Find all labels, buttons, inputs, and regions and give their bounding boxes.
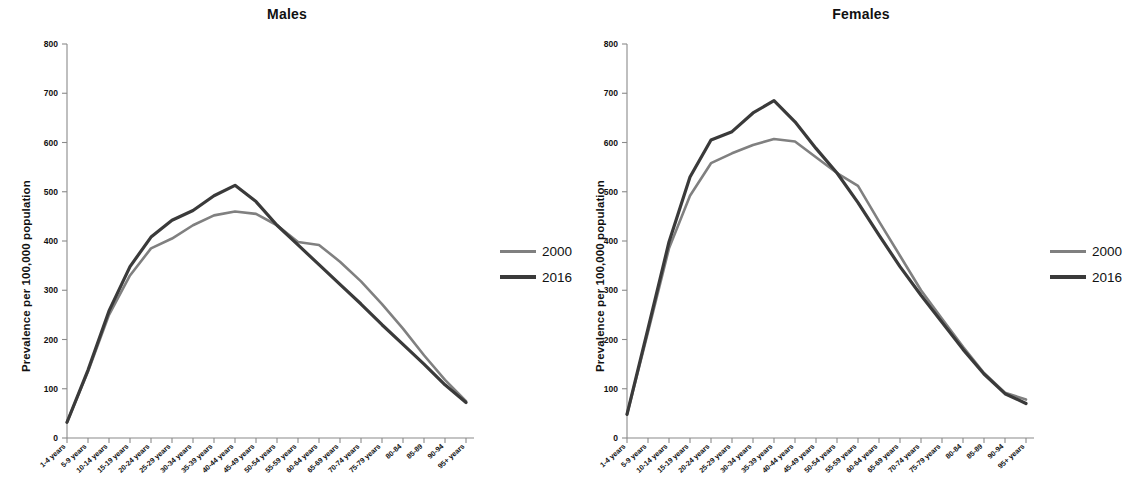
legend-item-2000[interactable]: 2000 <box>1050 238 1122 264</box>
series-line-2000 <box>67 211 466 422</box>
svg-text:100: 100 <box>604 384 618 394</box>
legend-swatch-2000-icon <box>500 250 536 253</box>
svg-text:400: 400 <box>604 236 618 246</box>
x-axis-ticks: 1-4 years5-9 years10-14 years15-19 years… <box>598 438 1026 475</box>
y-axis-ticks: 0100200300400500600700800 <box>44 39 67 443</box>
series-line-2016 <box>627 101 1026 415</box>
axes <box>67 44 474 438</box>
panel-females: Females Prevalence per 100,000 populatio… <box>574 0 1148 502</box>
svg-text:0: 0 <box>53 433 58 443</box>
svg-text:500: 500 <box>604 187 618 197</box>
y-axis-ticks: 0100200300400500600700800 <box>604 39 627 443</box>
svg-text:700: 700 <box>604 88 618 98</box>
svg-text:800: 800 <box>44 39 58 49</box>
svg-text:80-84: 80-84 <box>384 442 404 461</box>
figure-panels: Males Prevalence per 100,000 population … <box>0 0 1148 502</box>
svg-text:85-89: 85-89 <box>405 442 425 461</box>
legend-label-2016: 2016 <box>1092 270 1122 285</box>
legend-label-2000: 2000 <box>542 244 572 259</box>
svg-text:200: 200 <box>44 335 58 345</box>
svg-text:200: 200 <box>604 335 618 345</box>
svg-text:300: 300 <box>604 285 618 295</box>
axes <box>627 44 1034 438</box>
legend-label-2016: 2016 <box>542 270 572 285</box>
legend-item-2016[interactable]: 2016 <box>500 264 572 290</box>
svg-text:0: 0 <box>613 433 618 443</box>
chart-plot-males: 01002003004005006007008001-4 years5-9 ye… <box>0 0 574 502</box>
svg-text:600: 600 <box>604 138 618 148</box>
x-axis-ticks: 1-4 years5-9 years10-14 years15-19 years… <box>38 438 466 475</box>
svg-text:85-89: 85-89 <box>965 442 985 461</box>
series-line-2000 <box>627 139 1026 414</box>
legend-item-2000[interactable]: 2000 <box>500 238 572 264</box>
legend-item-2016[interactable]: 2016 <box>1050 264 1122 290</box>
svg-text:80-84: 80-84 <box>944 442 964 461</box>
svg-text:600: 600 <box>44 138 58 148</box>
legend-swatch-2000-icon <box>1050 250 1086 253</box>
legend-swatch-2016-icon <box>1050 275 1086 279</box>
svg-text:700: 700 <box>44 88 58 98</box>
svg-text:100: 100 <box>44 384 58 394</box>
svg-text:500: 500 <box>44 187 58 197</box>
svg-text:800: 800 <box>604 39 618 49</box>
svg-text:300: 300 <box>44 285 58 295</box>
legend-males: 20002016 <box>500 238 572 290</box>
svg-text:400: 400 <box>44 236 58 246</box>
legend-swatch-2016-icon <box>500 275 536 279</box>
legend-females: 20002016 <box>1050 238 1122 290</box>
panel-males: Males Prevalence per 100,000 population … <box>0 0 574 502</box>
legend-label-2000: 2000 <box>1092 244 1122 259</box>
